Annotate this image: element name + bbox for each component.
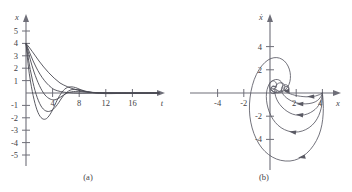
- plot-b-ytick-neg2: -2: [255, 111, 262, 121]
- plot-a-ytick-neg1: -1: [11, 100, 18, 110]
- plot-b-svg: -4 -2 2 4 4 2 -2 -4 ẋ x: [176, 0, 352, 192]
- plot-b-ytick-4: 4: [258, 42, 263, 52]
- plot-a-caption: (a): [83, 172, 93, 182]
- plot-a-ytick-3: 3: [14, 51, 18, 61]
- plot-b-xtick-neg4: -4: [214, 98, 222, 108]
- plot-a-ytick-neg2: -2: [11, 113, 18, 123]
- plot-b-arrow-4: [289, 130, 296, 134]
- panel-a: 5 4 3 2 1 -1 -2 -3 -4 -5 4 8 12 16 x t: [0, 0, 176, 192]
- plot-b-arrow-1: [307, 94, 314, 98]
- plot-a-ytick-2: 2: [14, 63, 18, 73]
- plot-a-ytick-1: 1: [14, 76, 18, 86]
- plot-a-ytick-5: 5: [14, 26, 18, 36]
- plot-b-xtick-neg2: -2: [240, 98, 247, 108]
- plot-a-ytick-neg3: -3: [11, 125, 18, 135]
- plot-a-xtick-8: 8: [77, 98, 81, 108]
- plot-a-curve-critical: [26, 43, 159, 93]
- plot-b-x-axis-label: x: [335, 98, 340, 108]
- plot-a-y-axis-label: x: [14, 12, 19, 22]
- plot-b-y-axis-label: ẋ: [258, 12, 263, 22]
- plot-b-caption: (b): [259, 172, 269, 182]
- plot-a-curve-overdamped: [26, 43, 159, 93]
- plot-a-svg: 5 4 3 2 1 -1 -2 -3 -4 -5 4 8 12 16 x t: [0, 0, 176, 192]
- plot-a-curves: [26, 43, 159, 119]
- plot-b-trajectory-1: [284, 86, 323, 96]
- plot-a-curve-under-3: [26, 43, 159, 119]
- plot-a-y-axis: [23, 14, 29, 166]
- plot-a-curve-under-1: [26, 43, 159, 99]
- plot-a-ytick-neg4: -4: [11, 138, 19, 148]
- plot-b-direction-arrows: [283, 89, 314, 159]
- plot-a-ytick-4: 4: [14, 38, 19, 48]
- plot-a-x-axis-label: t: [161, 98, 164, 108]
- panel-b: -4 -2 2 4 4 2 -2 -4 ẋ x: [176, 0, 352, 192]
- plot-b-arrow-2: [296, 102, 303, 106]
- plot-a-xtick-16: 16: [128, 98, 137, 108]
- plot-a-ytick-neg5: -5: [11, 150, 18, 160]
- plot-a-curve-under-2: [26, 43, 159, 111]
- figure-container: 5 4 3 2 1 -1 -2 -3 -4 -5 4 8 12 16 x t: [0, 0, 352, 192]
- plot-a-xtick-12: 12: [102, 98, 111, 108]
